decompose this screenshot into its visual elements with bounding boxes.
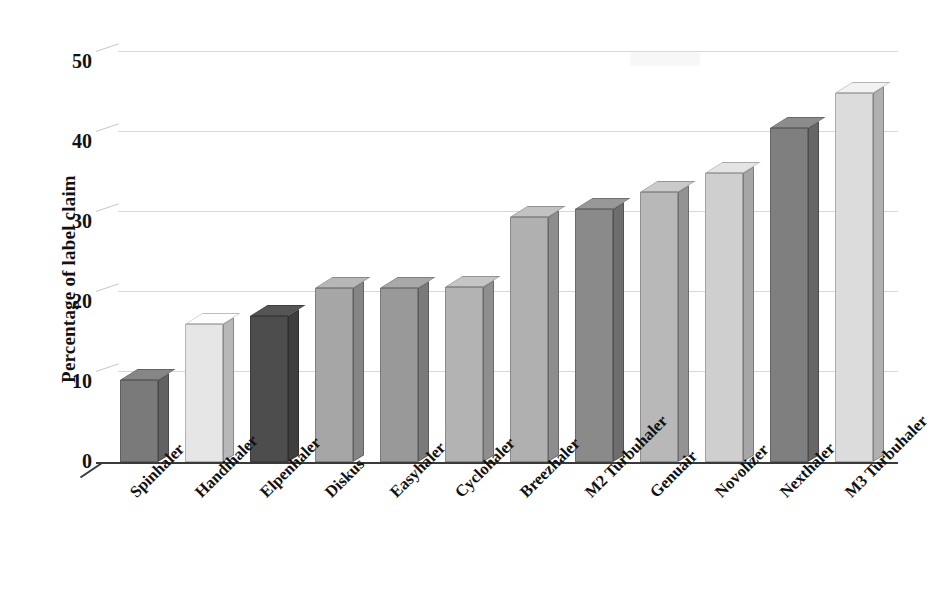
- bar-front-face: [120, 380, 158, 462]
- bar: [705, 173, 743, 462]
- y-tick-label: 40: [50, 131, 92, 151]
- bar-front-face: [705, 173, 743, 462]
- y-tick-label: 50: [50, 51, 92, 71]
- gridline-shoulder: [96, 203, 119, 212]
- gridline: [118, 51, 898, 52]
- gridline-shoulder: [96, 363, 119, 372]
- bar-front-face: [575, 209, 613, 462]
- bar-front-face: [510, 217, 548, 462]
- bar-side-face: [418, 282, 429, 462]
- gridline-shoulder: [96, 43, 119, 52]
- x-axis-category-labels: SpinhalerHandihalerElpenhalerDiskusEasyh…: [96, 480, 902, 613]
- bar: [510, 217, 548, 462]
- bar-side-face: [223, 317, 234, 462]
- bar: [185, 324, 223, 462]
- bar: [835, 93, 873, 462]
- bar: [315, 288, 353, 462]
- scan-artifact: [630, 52, 700, 66]
- bar: [120, 380, 158, 462]
- bar-side-face: [353, 282, 364, 462]
- bar-front-face: [315, 288, 353, 462]
- bar-front-face: [445, 287, 483, 462]
- plot-area: [96, 20, 902, 480]
- bar: [575, 209, 613, 462]
- y-tick-label: 10: [50, 371, 92, 391]
- bar-side-face: [548, 210, 559, 462]
- bar-front-face: [770, 128, 808, 462]
- bar-side-face: [873, 86, 884, 462]
- bar-front-face: [835, 93, 873, 462]
- bar-side-face: [288, 310, 299, 462]
- bar: [380, 288, 418, 462]
- bar-front-face: [380, 288, 418, 462]
- y-tick-label: 30: [50, 211, 92, 231]
- bar-side-face: [808, 122, 819, 462]
- bar-side-face: [483, 280, 494, 462]
- gridline-shoulder: [96, 283, 119, 292]
- bar-side-face: [678, 185, 689, 462]
- bar-side-face: [743, 166, 754, 462]
- bar: [445, 287, 483, 462]
- bar-front-face: [185, 324, 223, 462]
- y-tick-label: 0: [50, 451, 92, 471]
- bar: [770, 128, 808, 462]
- y-axis-tick-labels: 01020304050: [48, 0, 92, 613]
- gridline-shoulder: [96, 123, 119, 132]
- y-tick-label: 20: [50, 291, 92, 311]
- bar-side-face: [613, 202, 624, 462]
